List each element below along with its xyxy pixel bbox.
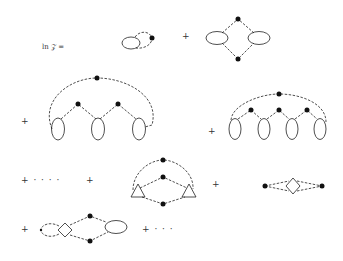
diagram-1 bbox=[122, 32, 155, 49]
diagram-4 bbox=[229, 92, 326, 140]
diagram-canvas: ln 𝒵 = + + + + · · · · + + + + · · · bbox=[0, 0, 343, 261]
diagram-3 bbox=[49, 76, 153, 141]
diagrams-svg bbox=[0, 0, 343, 261]
diagram-2 bbox=[206, 17, 270, 62]
diagram-7 bbox=[40, 214, 127, 244]
diagram-5 bbox=[131, 158, 196, 207]
vertex-dot bbox=[150, 36, 155, 41]
diagram-6 bbox=[263, 178, 325, 194]
